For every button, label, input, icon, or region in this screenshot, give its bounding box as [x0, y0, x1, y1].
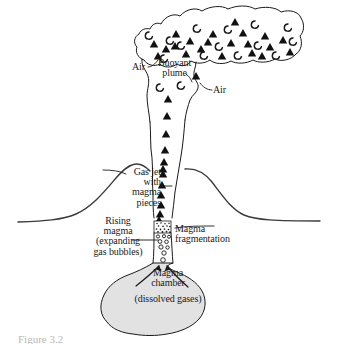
conduit-lower-right-wall: [171, 233, 173, 263]
label-magma-chamber: Magma chamber: [132, 268, 204, 288]
label-buoyant-plume: Buoyant plume: [158, 58, 191, 78]
cone-right-slope: [185, 169, 320, 221]
label-rising-magma: Rising magma (expanding gas bubbles): [76, 216, 160, 257]
bubble: [161, 258, 166, 263]
bubble: [162, 251, 166, 255]
volcano-edifice: [18, 164, 320, 222]
label-air-left: Air: [132, 62, 145, 72]
label-gas-jet: Gas jet with magma pieces: [99, 167, 161, 208]
conduit-right-wall: [172, 120, 185, 218]
figure-container: Air Air Buoyant plume Gas jet with magma…: [0, 0, 338, 344]
leader-air-right: [200, 83, 212, 90]
bubble: [168, 235, 171, 238]
bubble: [162, 235, 165, 238]
figure-caption: Figure 3.2: [18, 333, 63, 344]
label-air-right: Air: [213, 85, 226, 95]
label-magma-fragmentation: Magma fragmentation: [175, 224, 230, 244]
bubble: [166, 246, 169, 249]
label-dissolved-gases: (dissolved gases): [122, 294, 214, 304]
bubble: [165, 240, 169, 244]
